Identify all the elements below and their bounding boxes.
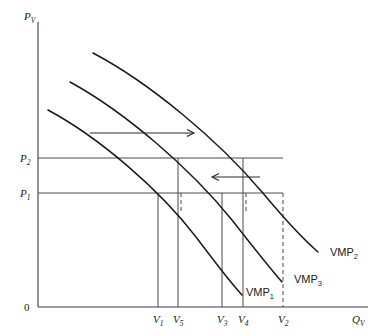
- origin-label: 0: [24, 301, 30, 313]
- quantity-guides-group: [158, 158, 283, 307]
- curve-vmp1: [48, 110, 242, 295]
- quantity-label-v5: V5: [173, 313, 184, 328]
- curve-labels-group: VMP1 VMP3 VMP2: [246, 246, 358, 301]
- diagram-canvas: PV QV 0 P2 P1 V1 V5 V3: [0, 0, 389, 336]
- quantity-label-v1: V1: [153, 313, 163, 328]
- quantity-label-v2: V2: [278, 313, 289, 328]
- quantity-labels-group: V1 V5 V3 V4 V2: [153, 313, 289, 328]
- economics-vmp-diagram: PV QV 0 P2 P1 V1 V5 V3: [0, 0, 389, 336]
- curve-label-vmp3: VMP3: [294, 273, 322, 288]
- quantity-label-v3: V3: [217, 313, 228, 328]
- curve-vmp3: [70, 82, 282, 282]
- y-axis-label: PV: [23, 10, 37, 25]
- quantity-label-v4: V4: [238, 313, 249, 328]
- price-labels-group: P2 P1: [19, 152, 31, 202]
- price-label-p1: P1: [19, 187, 30, 202]
- curve-vmp2: [93, 53, 318, 252]
- curve-label-vmp2: VMP2: [330, 246, 358, 261]
- axes-group: [38, 22, 368, 307]
- x-axis-label: QV: [352, 313, 366, 328]
- price-label-p2: P2: [19, 152, 31, 167]
- vmp-curves-group: [48, 53, 318, 295]
- price-guides-group: [38, 158, 283, 193]
- curve-label-vmp1: VMP1: [246, 286, 274, 301]
